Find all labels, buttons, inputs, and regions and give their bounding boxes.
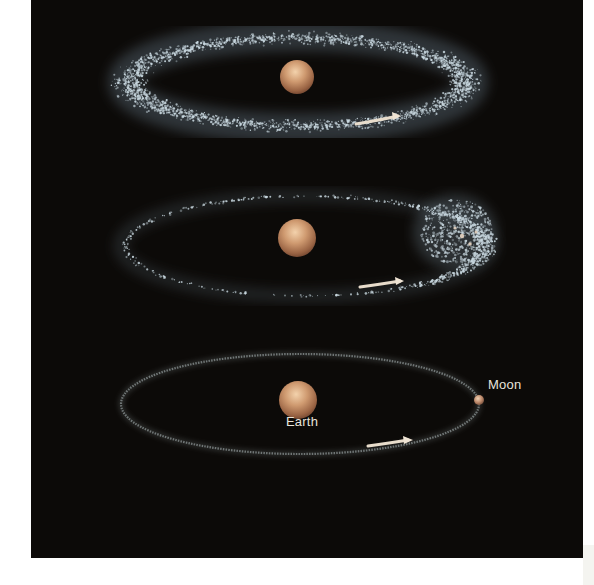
debris-particle — [405, 45, 406, 46]
debris-particle — [276, 131, 278, 133]
debris-particle — [468, 225, 469, 226]
debris-particle — [146, 54, 148, 56]
debris-particle — [202, 123, 204, 125]
debris-particle — [224, 200, 226, 202]
debris-particle — [416, 56, 418, 58]
debris-particle — [359, 40, 360, 41]
debris-particle — [365, 43, 366, 44]
debris-particle — [152, 98, 154, 100]
debris-particle — [382, 116, 383, 117]
debris-particle — [123, 250, 125, 252]
debris-particle — [163, 52, 166, 55]
debris-particle — [435, 106, 437, 108]
debris-particle — [437, 100, 439, 102]
debris-particle — [469, 91, 470, 92]
debris-particle — [494, 240, 496, 242]
debris-particle — [459, 213, 461, 215]
debris-particle — [281, 34, 283, 36]
debris-particle — [456, 252, 457, 253]
debris-particle — [466, 240, 467, 241]
debris-particle — [189, 115, 190, 116]
debris-particle — [143, 69, 144, 70]
debris-particle — [439, 219, 441, 221]
debris-particle — [116, 85, 117, 86]
debris-particle — [433, 55, 434, 56]
debris-particle — [132, 69, 133, 70]
debris-particle — [474, 78, 475, 79]
debris-particle — [468, 251, 469, 252]
moonlet — [475, 231, 478, 234]
debris-particle — [254, 129, 256, 131]
debris-particle — [469, 231, 471, 233]
debris-particle — [214, 202, 216, 204]
debris-particle — [196, 42, 198, 44]
debris-particle — [278, 40, 279, 41]
debris-particle — [376, 41, 378, 43]
debris-particle — [184, 109, 186, 111]
debris-particle — [446, 67, 447, 68]
debris-particle — [226, 290, 228, 292]
debris-particle — [491, 228, 493, 230]
debris-particle — [472, 88, 473, 89]
debris-particle — [476, 213, 477, 214]
debris-particle — [124, 87, 125, 88]
debris-particle — [131, 231, 132, 232]
debris-particle — [464, 78, 466, 80]
debris-particle — [479, 229, 480, 230]
debris-particle — [342, 38, 343, 39]
debris-particle — [446, 219, 448, 221]
debris-particle — [147, 79, 148, 80]
debris-particle — [448, 66, 450, 68]
debris-particle — [306, 34, 307, 35]
debris-particle — [338, 121, 339, 122]
debris-particle — [130, 91, 132, 93]
debris-particle — [360, 41, 362, 43]
debris-particle — [180, 106, 181, 107]
debris-particle — [444, 61, 445, 62]
debris-particle — [476, 247, 478, 249]
debris-particle — [330, 41, 332, 43]
debris-particle — [155, 65, 156, 66]
debris-particle — [125, 91, 126, 92]
debris-particle — [409, 46, 411, 48]
debris-particle — [440, 236, 441, 237]
debris-particle — [441, 256, 443, 258]
debris-particle — [352, 37, 353, 38]
debris-particle — [137, 88, 139, 90]
debris-particle — [313, 121, 314, 122]
debris-particle — [321, 124, 322, 125]
debris-particle — [402, 203, 404, 205]
debris-particle — [179, 52, 181, 54]
debris-particle — [155, 105, 156, 106]
debris-particle — [252, 197, 254, 199]
debris-particle — [354, 44, 357, 47]
debris-particle — [236, 119, 237, 120]
debris-particle — [402, 115, 403, 116]
debris-particle — [405, 49, 407, 51]
debris-particle — [165, 53, 167, 55]
debris-particle — [335, 35, 337, 37]
debris-particle — [482, 261, 483, 262]
debris-particle — [257, 123, 258, 124]
debris-particle — [307, 35, 309, 37]
debris-particle — [461, 263, 463, 265]
debris-particle — [198, 114, 199, 115]
debris-particle — [465, 81, 466, 82]
debris-particle — [432, 108, 433, 109]
debris-particle — [301, 42, 303, 44]
debris-particle — [128, 77, 130, 79]
debris-particle — [139, 87, 140, 88]
debris-particle — [169, 54, 170, 55]
debris-particle — [333, 39, 335, 41]
debris-particle — [398, 118, 399, 119]
debris-particle — [413, 119, 414, 120]
debris-particle — [446, 57, 447, 58]
debris-particle — [343, 41, 345, 43]
debris-particle — [175, 112, 176, 113]
debris-particle — [470, 72, 471, 73]
debris-particle — [397, 49, 398, 50]
debris-particle — [148, 91, 149, 92]
debris-particle — [165, 55, 167, 57]
debris-particle — [433, 244, 434, 245]
debris-particle — [348, 36, 349, 37]
